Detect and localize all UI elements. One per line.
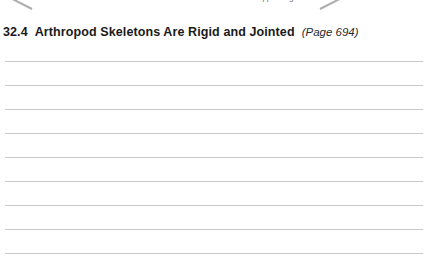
- answer-line[interactable]: [5, 85, 423, 86]
- answer-line[interactable]: [5, 253, 423, 254]
- answer-line[interactable]: [5, 157, 423, 158]
- section-heading: 32.4Arthropod Skeletons Are Rigid and Jo…: [3, 22, 423, 40]
- leader-line-left-icon: [10, 0, 32, 10]
- answer-line[interactable]: [5, 229, 423, 230]
- answer-line[interactable]: [5, 109, 423, 110]
- section-title: Arthropod Skeletons Are Rigid and Jointe…: [35, 25, 295, 39]
- answer-line[interactable]: [5, 61, 423, 62]
- answer-line[interactable]: [5, 181, 423, 182]
- figure-remnant: appendage: [0, 0, 428, 14]
- answer-line[interactable]: [5, 205, 423, 206]
- figure-callout-label: appendage: [246, 0, 310, 3]
- section-page-reference: (Page 694): [302, 26, 359, 38]
- section-number: 32.4: [3, 25, 28, 39]
- answer-line[interactable]: [5, 133, 423, 134]
- leader-line-right-icon: [320, 0, 342, 10]
- answer-lines-area: [0, 52, 428, 272]
- worksheet-page: appendage 32.4Arthropod Skeletons Are Ri…: [0, 0, 428, 272]
